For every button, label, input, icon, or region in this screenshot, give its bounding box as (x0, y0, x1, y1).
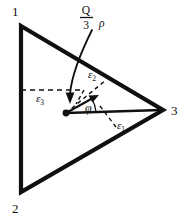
epsilon-2-subscript: 2 (92, 74, 96, 83)
charge-denominator-label: 3 (83, 19, 89, 31)
center-point-dot (63, 110, 70, 117)
epsilon-3-subscript: 3 (40, 98, 44, 107)
rho-label: ρ (98, 17, 105, 30)
phi-angle-label: φ (85, 101, 92, 115)
vertex-1-label: 1 (12, 4, 19, 19)
epsilon-1-subscript: 1 (121, 125, 125, 134)
charge-numerator-label: Q (82, 4, 91, 16)
vertex-3-label: 3 (171, 103, 178, 118)
vertex-2-label: 2 (12, 201, 19, 216)
diagram-canvas: 1 2 3 Q 3 ρ φ ε1 ε2 ε3 (0, 0, 184, 221)
figure-root: 1 2 3 Q 3 ρ φ ε1 ε2 ε3 (0, 0, 184, 221)
